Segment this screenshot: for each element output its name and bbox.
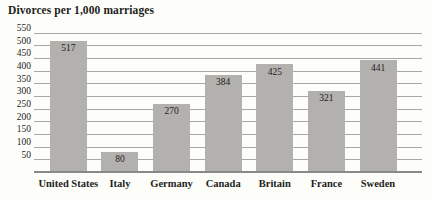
y-tick-label-500: 500: [4, 36, 31, 46]
bar-value-label-britain: 425: [256, 67, 293, 77]
y-tick-label-200: 200: [4, 112, 31, 122]
y-tick-label-400: 400: [4, 61, 31, 71]
gridline-550: [34, 33, 422, 34]
bar-canada: [205, 75, 242, 171]
y-tick-label-100: 100: [4, 137, 31, 147]
bar-value-label-france: 321: [308, 93, 345, 103]
y-tick-label-550: 550: [4, 23, 31, 33]
bar-value-label-united-states: 517: [50, 43, 87, 53]
gridline-500: [34, 45, 422, 46]
bar-britain: [256, 64, 293, 171]
gridline-450: [34, 58, 422, 59]
bar-united-states: [50, 41, 87, 171]
bar-value-label-sweden: 441: [360, 63, 397, 73]
y-tick-label-300: 300: [4, 86, 31, 96]
bar-value-label-germany: 270: [153, 106, 190, 116]
y-tick-label-250: 250: [4, 99, 31, 109]
bar-value-label-canada: 384: [205, 77, 242, 87]
chart-title: Divorces per 1,000 marriages: [8, 4, 154, 16]
y-tick-label-50: 50: [4, 150, 31, 160]
bar-value-label-italy: 80: [101, 154, 138, 164]
bar-chart: Divorces per 1,000 marriages 55050045040…: [0, 0, 431, 200]
y-tick-label-350: 350: [4, 74, 31, 84]
y-tick-label-450: 450: [4, 48, 31, 58]
x-axis-line: [34, 171, 422, 173]
x-category-label-sweden: Sweden: [333, 178, 423, 189]
y-tick-label-150: 150: [4, 124, 31, 134]
bar-sweden: [360, 60, 397, 171]
